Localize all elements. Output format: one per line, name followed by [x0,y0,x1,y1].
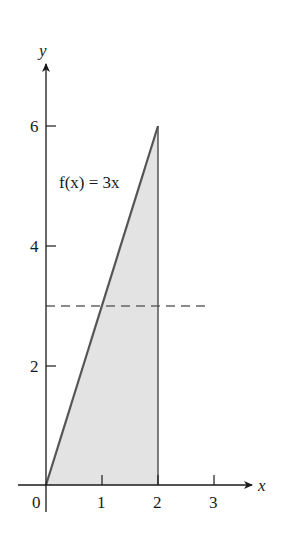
x-tick-label-0: 0 [32,493,41,512]
x-tick-label-3: 3 [209,493,218,512]
y-axis-label: y [37,41,47,60]
x-tick-label-1: 1 [97,493,106,512]
y-tick-label-6: 6 [30,117,39,136]
y-tick-label-4: 4 [30,237,39,256]
chart: 0 1 2 3 2 4 6 x y f(x) = 3x [0,0,285,539]
x-axis-label: x [257,476,266,495]
x-tick-label-2: 2 [153,493,162,512]
y-tick-label-2: 2 [30,357,39,376]
function-label: f(x) = 3x [59,173,120,192]
